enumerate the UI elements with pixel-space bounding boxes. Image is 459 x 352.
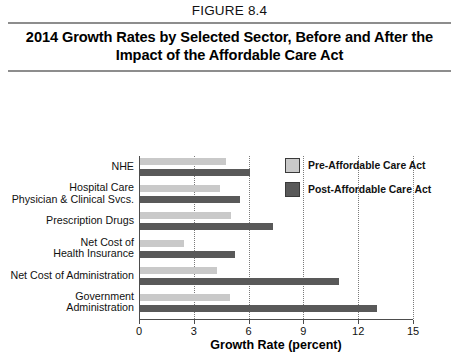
legend-label-1: Post-Affordable Care Act — [308, 184, 431, 195]
x-tick-3 — [194, 320, 195, 324]
bar-post-0 — [140, 169, 250, 176]
category-label-5: Government Administration — [66, 291, 134, 314]
category-label-3: Net Cost of Health Insurance — [53, 237, 134, 260]
legend-label-0: Pre-Affordable Care Act — [308, 160, 425, 171]
category-label-4: Net Cost of Administration — [10, 270, 134, 282]
bar-pre-0 — [140, 158, 226, 165]
chart-title: 2014 Growth Rates by Selected Sector, Be… — [0, 24, 459, 68]
legend-item-1: Post-Affordable Care Act — [285, 182, 431, 197]
category-label-2: Prescription Drugs — [46, 215, 134, 227]
category-label-0: NHE — [111, 161, 134, 173]
x-axis-line — [139, 319, 413, 320]
x-tick-15 — [413, 320, 414, 324]
chart-legend: Pre-Affordable Care ActPost-Affordable C… — [285, 158, 431, 206]
x-tick-label-0: 0 — [136, 325, 142, 337]
x-axis-title: Growth Rate (percent) — [139, 338, 413, 352]
x-tick-6 — [249, 320, 250, 324]
bar-pre-3 — [140, 240, 184, 247]
x-tick-12 — [358, 320, 359, 324]
x-tick-label-9: 9 — [300, 325, 306, 337]
bar-post-3 — [140, 251, 235, 258]
x-tick-0 — [139, 320, 140, 324]
bar-pre-4 — [140, 267, 217, 274]
bar-pre-2 — [140, 212, 231, 219]
chart-plot-area: 03691215 NHEHospital Care Physician & Cl… — [0, 72, 459, 268]
bar-pre-1 — [140, 185, 220, 192]
post-aca-swatch — [285, 182, 300, 197]
category-label-1: Hospital Care Physician & Clinical Svcs. — [12, 182, 134, 205]
bar-post-4 — [140, 278, 339, 285]
x-tick-label-15: 15 — [407, 325, 419, 337]
pre-aca-swatch — [285, 158, 300, 173]
x-tick-label-6: 6 — [246, 325, 252, 337]
bar-post-5 — [140, 305, 377, 312]
x-tick-label-3: 3 — [191, 325, 197, 337]
x-tick-label-12: 12 — [352, 325, 364, 337]
x-tick-9 — [303, 320, 304, 324]
bar-post-2 — [140, 223, 273, 230]
legend-item-0: Pre-Affordable Care Act — [285, 158, 431, 173]
gridline-6 — [249, 156, 250, 319]
bar-pre-5 — [140, 294, 230, 301]
figure-label: FIGURE 8.4 — [0, 0, 459, 18]
bar-post-1 — [140, 196, 240, 203]
